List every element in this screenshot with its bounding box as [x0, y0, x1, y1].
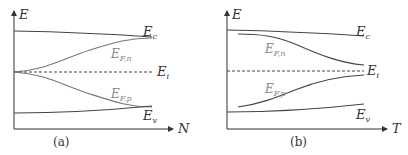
y-axis-label-a: E	[18, 7, 29, 22]
curve-efn-b	[238, 34, 364, 65]
curve-ec-b	[227, 30, 364, 36]
curve-ev-a	[14, 106, 152, 113]
label-efp-b: EF,p	[264, 82, 286, 98]
label-efn-b: EF,n	[264, 42, 286, 58]
label-ei-a: Ei	[156, 64, 170, 81]
curve-efp-b	[238, 75, 364, 107]
caption-b: (b)	[290, 135, 307, 149]
y-axis-label-b: E	[231, 7, 242, 22]
curve-ec-a	[14, 31, 152, 37]
x-axis-label-a: N	[177, 121, 190, 136]
label-ec-b: Ec	[355, 24, 371, 41]
panel-b: E T Ec EF,n Ei EF,p Ev (b)	[227, 7, 402, 149]
label-efp-a: EF,p	[110, 87, 132, 103]
x-axis-label-b: T	[392, 121, 402, 136]
label-ev-b: Ev	[355, 107, 371, 124]
label-ei-b: Ei	[366, 63, 380, 80]
label-ev-a: Ev	[142, 108, 158, 125]
label-efn-a: EF,n	[110, 47, 132, 63]
caption-a: (a)	[53, 135, 70, 149]
band-diagram-figure: E N Ec EF,n Ei EF,p Ev (a) E T Ec EF,n E…	[0, 0, 408, 155]
label-ec-a: Ec	[142, 24, 158, 41]
panel-a: E N Ec EF,n Ei EF,p Ev (a)	[14, 7, 190, 149]
